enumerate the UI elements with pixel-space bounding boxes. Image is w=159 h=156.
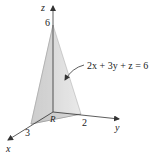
z-intercept-label: 6 xyxy=(45,17,50,28)
x-axis-label: x xyxy=(5,143,11,154)
region-label: R xyxy=(49,114,56,124)
face-plane xyxy=(31,25,81,124)
z-axis-label: z xyxy=(40,2,45,13)
plane-equation-label: 2x + 3y + z = 6 xyxy=(87,60,148,71)
y-intercept-label: 2 xyxy=(82,117,87,128)
y-axis-label: y xyxy=(114,122,120,133)
tetrahedron-figure: z 6 2x + 3y + z = 6 R 2 y 3 x xyxy=(0,0,159,156)
x-intercept-label: 3 xyxy=(25,127,30,138)
x-axis xyxy=(8,112,53,140)
